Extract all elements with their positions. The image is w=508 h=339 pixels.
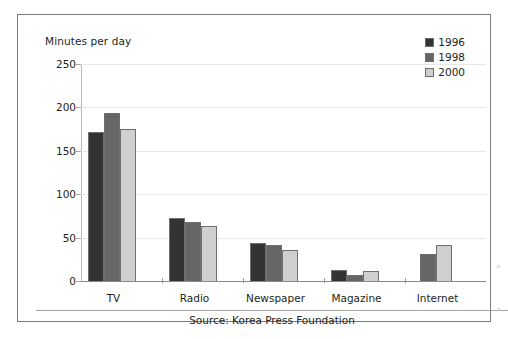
bar-group xyxy=(162,64,243,281)
legend-label-1998: 1998 xyxy=(438,52,465,63)
chart-frame: Minutes per day 1996 1998 2000 050100150… xyxy=(17,14,491,322)
y-axis-labels: 050100150200250 xyxy=(38,64,76,282)
bar xyxy=(250,243,266,281)
source-note: Source: Korea Press Foundation xyxy=(36,314,508,326)
bar xyxy=(120,129,136,281)
y-axis-tick-label: 0 xyxy=(69,275,76,287)
bar xyxy=(347,275,363,281)
bar xyxy=(363,271,379,281)
bar xyxy=(436,245,452,281)
scan-artifact-mark: » xyxy=(496,305,501,314)
bar-group xyxy=(81,64,162,281)
bar xyxy=(282,250,298,281)
x-axis-category-label: Newspaper xyxy=(246,292,305,304)
y-axis-tick-label: 250 xyxy=(56,58,76,70)
bar-group xyxy=(405,64,486,281)
legend-item-1998: 1998 xyxy=(425,51,465,63)
bar xyxy=(169,218,185,281)
bar xyxy=(88,132,104,281)
y-axis-tick-label: 150 xyxy=(56,145,76,157)
x-axis-category-label: Magazine xyxy=(331,292,381,304)
bar xyxy=(331,270,347,281)
scan-artifact-mark: » xyxy=(496,262,501,271)
legend-item-1996: 1996 xyxy=(425,36,465,48)
y-axis-tick-label: 100 xyxy=(56,188,76,200)
bar xyxy=(420,254,436,281)
plot-area xyxy=(81,64,486,282)
bar xyxy=(266,245,282,281)
legend-label-1996: 1996 xyxy=(438,37,465,48)
x-axis-category-labels: TVRadioNewspaperMagazineInternet xyxy=(81,292,486,308)
y-axis-tick-label: 200 xyxy=(56,101,76,113)
bar-group xyxy=(324,64,405,281)
x-axis-category-label: TV xyxy=(107,292,121,304)
x-axis-category-label: Internet xyxy=(417,292,459,304)
x-axis-line xyxy=(81,281,486,282)
x-axis-category-label: Radio xyxy=(180,292,210,304)
legend-swatch-1996 xyxy=(425,38,434,47)
y-axis-title: Minutes per day xyxy=(45,35,131,47)
y-axis-tick-label: 50 xyxy=(63,232,76,244)
bar xyxy=(104,113,120,281)
legend-swatch-1998 xyxy=(425,53,434,62)
bar xyxy=(201,226,217,281)
y-axis-tick xyxy=(76,281,81,282)
bar-group xyxy=(243,64,324,281)
bar xyxy=(185,222,201,281)
source-divider xyxy=(36,310,508,311)
